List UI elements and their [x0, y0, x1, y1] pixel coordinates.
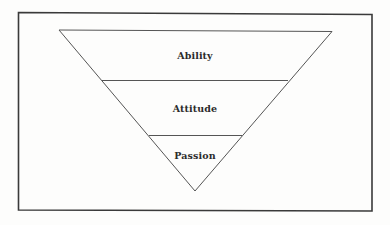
layer-label-attitude: Attitude: [145, 103, 245, 115]
inverted-pyramid-diagram: Ability Attitude Passion: [0, 0, 390, 225]
layer-label-ability: Ability: [145, 50, 245, 62]
layer-label-passion: Passion: [145, 150, 245, 162]
